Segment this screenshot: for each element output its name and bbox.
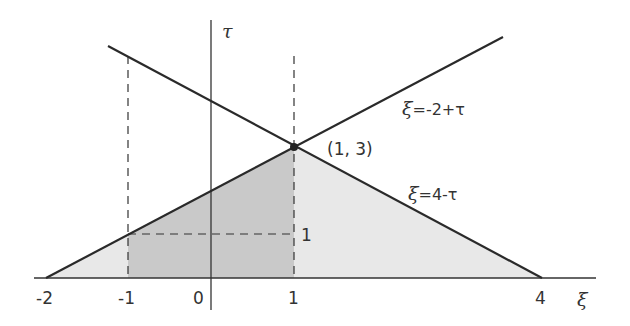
y-tick-1: 1 [301,225,312,245]
y-axis-label: τ [222,20,233,42]
x-tick-1: 1 [288,288,299,308]
falling-line-label: ξ=4-τ [408,182,457,204]
x-tick-neg2: -2 [36,288,53,308]
region-diagram: τ ξ -2 -1 0 1 4 1 (1, 3) ξ=-2+τ ξ=4-τ [0,0,630,326]
rising-line-label: ξ=-2+τ [402,97,465,119]
x-tick-0: 0 [193,288,204,308]
intersection-point [290,143,298,151]
x-axis-label: ξ [577,288,589,310]
x-tick-4: 4 [535,288,546,308]
x-tick-neg1: -1 [118,288,135,308]
point-label: (1, 3) [327,139,373,159]
